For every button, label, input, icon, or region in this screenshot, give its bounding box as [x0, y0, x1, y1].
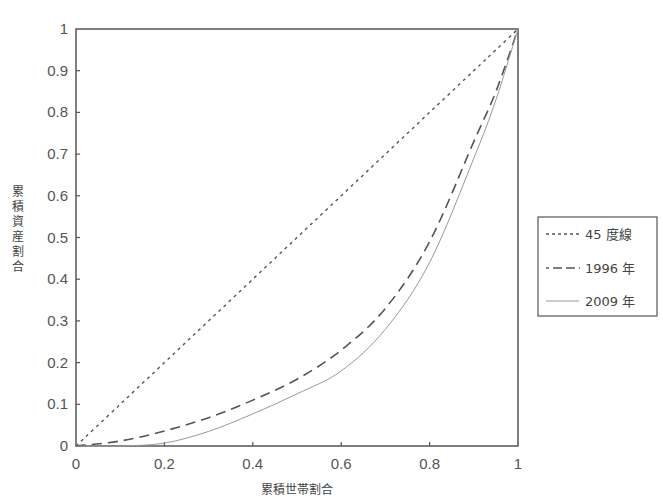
y-tick-label: 0.9 — [47, 62, 68, 79]
legend-label-1996: 1996 年 — [585, 261, 635, 276]
chart-title-clipped — [150, 0, 500, 3]
y-tick-label: 0.3 — [47, 312, 68, 329]
x-tick-label: 0.8 — [419, 455, 440, 472]
series-lines — [76, 29, 518, 446]
x-tick-label: 0.2 — [154, 455, 175, 472]
x-tick-label: 0.6 — [331, 455, 352, 472]
y-axis-ticks: 00.10.20.30.40.50.60.70.80.91 — [47, 20, 80, 454]
y-tick-label: 0.5 — [47, 229, 68, 246]
x-axis-title: 累積世帯割合 — [261, 482, 333, 497]
y-tick-label: 0 — [60, 437, 68, 454]
y-tick-label: 0.6 — [47, 187, 68, 204]
y-tick-label: 0.4 — [47, 270, 68, 287]
y-tick-label: 0.1 — [47, 395, 68, 412]
y-tick-label: 1 — [60, 20, 68, 37]
y-tick-label: 0.8 — [47, 103, 68, 120]
y-axis-title: 累積資産割合 — [12, 185, 24, 274]
x-tick-label: 0.4 — [242, 455, 263, 472]
legend-label-2009: 2009 年 — [585, 294, 635, 309]
lorenz-curve-chart: 00.10.20.30.40.50.60.70.80.91 00.20.40.6… — [0, 0, 663, 497]
y-tick-label: 0.2 — [47, 354, 68, 371]
legend-label-45deg: 45 度線 — [585, 227, 632, 242]
legend: 45 度線 1996 年 2009 年 — [538, 217, 657, 316]
y-tick-label: 0.7 — [47, 145, 68, 162]
series-line-0 — [76, 29, 518, 446]
x-tick-label: 1 — [514, 455, 522, 472]
x-tick-label: 0 — [72, 455, 80, 472]
